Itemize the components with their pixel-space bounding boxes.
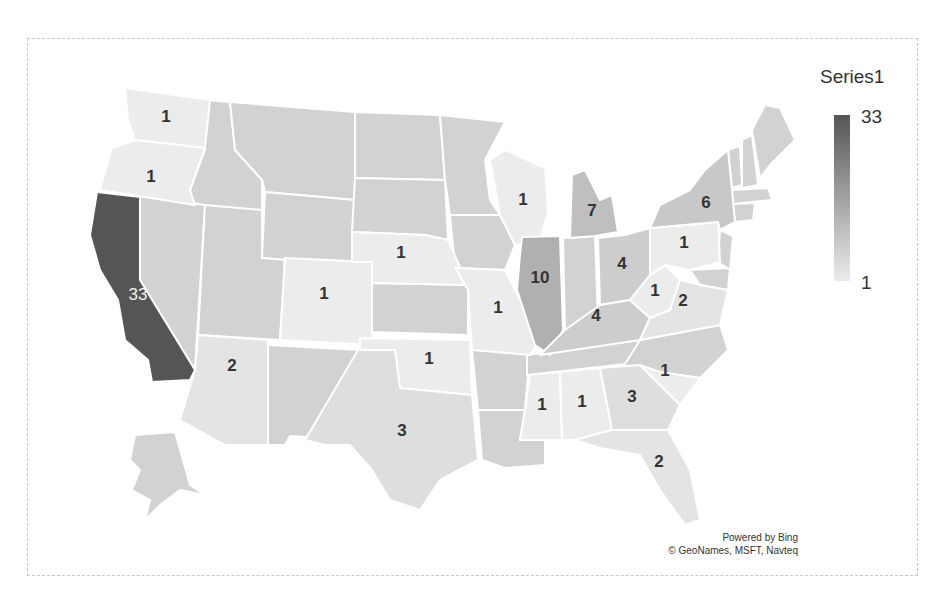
- state-arkansas: [472, 350, 530, 410]
- state-alaska: [130, 432, 205, 520]
- label-alabama: 1: [577, 392, 586, 412]
- label-florida: 2: [654, 452, 663, 472]
- label-oklahoma: 1: [424, 349, 433, 369]
- label-kentucky: 4: [591, 306, 600, 326]
- label-texas: 3: [397, 421, 406, 441]
- label-washington: 1: [161, 107, 170, 127]
- label-pennsylvania: 1: [679, 233, 688, 253]
- legend-max-label: 33: [861, 106, 882, 128]
- label-new-york: 6: [701, 193, 710, 213]
- state-massachusetts: [732, 188, 772, 204]
- label-virginia: 2: [678, 291, 687, 311]
- label-colorado: 1: [319, 284, 328, 304]
- state-new-york: [650, 150, 735, 230]
- state-florida: [575, 430, 700, 525]
- label-south-carolina: 1: [660, 361, 669, 381]
- label-oregon: 1: [146, 167, 155, 187]
- legend-min-label: 1: [861, 272, 872, 294]
- label-mississippi: 1: [537, 395, 546, 415]
- legend-color-scale: [834, 115, 850, 281]
- label-illinois: 10: [531, 268, 550, 288]
- attribution-powered-by: Powered by Bing: [668, 531, 798, 544]
- label-wisconsin: 1: [518, 190, 527, 210]
- state-wyoming: [262, 192, 355, 265]
- label-georgia: 3: [627, 387, 636, 407]
- state-connecticut: [733, 203, 755, 222]
- label-missouri: 1: [493, 298, 502, 318]
- state-north-dakota: [355, 112, 445, 180]
- attribution-copyright: © GeoNames, MSFT, Navteq: [668, 544, 798, 557]
- state-maine: [752, 105, 795, 178]
- label-arizona: 2: [227, 356, 236, 376]
- legend-title: Series1: [820, 66, 884, 88]
- label-nebraska: 1: [396, 243, 405, 263]
- label-west-virginia: 1: [650, 281, 659, 301]
- label-michigan: 7: [587, 201, 596, 221]
- label-california: 33: [129, 285, 148, 305]
- label-ohio: 4: [617, 254, 626, 274]
- state-south-dakota: [352, 178, 448, 240]
- state-kansas: [372, 283, 468, 335]
- map-attribution: Powered by Bing © GeoNames, MSFT, Navteq: [668, 531, 798, 557]
